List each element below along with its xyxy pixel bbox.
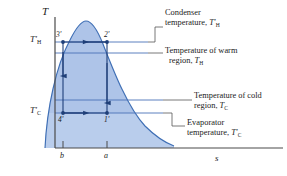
annotation-condenser-line2: temperature, T′H [165,19,220,28]
annotation-leaders [148,27,192,126]
vapor-dome [40,21,180,148]
annotation-condenser-temperature: Condenser temperature, T′H [165,9,220,28]
annotation-warm-line2-text: region, [169,56,195,65]
annotation-warm-region-temperature: Temperature of warm region, TH [165,47,237,66]
axis-label-condenser-temperature: T′H [30,35,41,44]
annotation-warm-line2: region, TH [169,57,237,66]
annotation-warm-line1: Temperature of warm [165,47,237,56]
sym-sub-H: H [37,39,41,45]
ts-diagram-svg [0,0,287,176]
annotation-evaporator-line2-text: temperature, [187,128,231,137]
sym-sub-C: C [238,131,242,137]
sym-sub-C: C [37,110,41,116]
dot-2-prime [105,40,109,44]
sym-sub-H: H [216,21,220,27]
axis-label-evaporator-temperature: T′C [30,106,41,115]
temperature-axis-label: T [42,6,48,18]
tick-label-a: a [104,152,108,160]
annotation-condenser-line1: Condenser [165,9,220,18]
annotation-evaporator-line1: Evaporator [187,119,241,128]
dot-3-prime [61,40,65,44]
sym-sub-C: C [224,104,228,110]
figure-canvas: T s T′H T′C b a 3' 2' 4' 1' Condenser te… [0,0,287,176]
annotation-cold-line2-text: region, [194,101,220,110]
annotation-condenser-line2-text: temperature, [165,18,209,27]
annotation-evaporator-line2: temperature, T′C [187,129,241,138]
state-point-3-prime-label: 3' [56,31,61,39]
tick-label-b: b [60,152,64,160]
state-point-2-prime-label: 2' [104,31,109,39]
annotation-evaporator-temperature: Evaporator temperature, T′C [187,119,241,138]
leader-evaporator [163,113,185,126]
leader-condenser [148,27,163,42]
annotation-cold-line1: Temperature of cold [194,92,262,101]
state-point-1-prime-label: 1' [104,116,109,124]
annotation-cold-region-temperature: Temperature of cold region, TC [194,92,262,111]
state-point-4-prime-label: 4' [58,116,63,124]
sym-sub-H: H [199,59,203,65]
annotation-cold-line2: region, TC [194,102,262,111]
entropy-axis-label: s [215,154,219,163]
